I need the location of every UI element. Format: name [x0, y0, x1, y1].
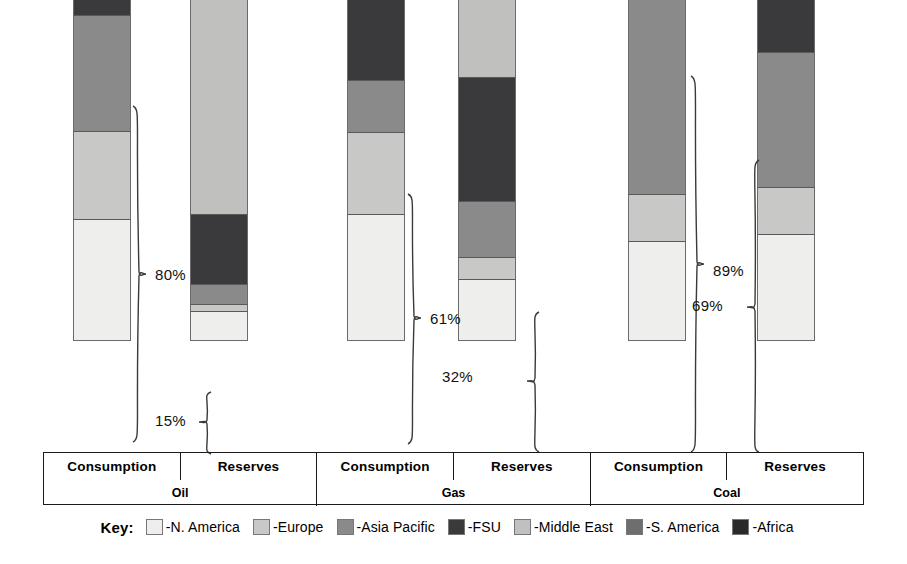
- axis-column-oil-reserves: Reserves: [181, 453, 318, 480]
- bar-segment: [73, 0, 131, 15]
- bar-segment: [347, 214, 405, 341]
- legend-swatch-icon: [732, 519, 749, 535]
- brace-gas-consumption: [406, 194, 422, 444]
- legend-item: -Africa: [732, 519, 793, 535]
- bar-segment: [458, 201, 516, 257]
- legend-swatch-icon: [448, 519, 465, 535]
- axis-column-gas-consumption: Consumption: [317, 453, 454, 480]
- bar-coal-consumption: [628, 0, 686, 341]
- bar-segment: [190, 311, 248, 341]
- annotation-label-gas-reserves: 32%: [442, 368, 473, 385]
- bar-gas-consumption: [347, 0, 405, 341]
- bar-segment: [628, 194, 686, 241]
- legend: Key: -N. America-Europe-Asia Pacific-FSU…: [0, 512, 907, 542]
- legend-item: -FSU: [448, 519, 501, 535]
- bar-oil-reserves: [190, 0, 248, 341]
- annotation-label-oil-reserves: 15%: [155, 412, 186, 429]
- bar-segment: [628, 241, 686, 341]
- legend-item-label: -FSU: [468, 519, 501, 535]
- brace-gas-reserves: [525, 312, 541, 452]
- axis-label-box: Consumption Reserves Consumption Reserve…: [43, 452, 864, 505]
- annotation-label-gas-consumption: 61%: [430, 310, 461, 327]
- legend-item-label: -Middle East: [534, 519, 613, 535]
- legend-item-label: -N. America: [166, 519, 240, 535]
- legend-item: -Asia Pacific: [337, 519, 435, 535]
- legend-swatch-icon: [253, 519, 270, 535]
- legend-item-label: -Africa: [752, 519, 793, 535]
- bar-segment: [73, 219, 131, 341]
- bar-segment: [190, 0, 248, 214]
- bar-oil-consumption: [73, 0, 131, 341]
- legend-item: -S. America: [626, 519, 719, 535]
- bar-segment: [458, 257, 516, 279]
- annotation-label-coal-reserves: 69%: [692, 297, 723, 314]
- bar-segment: [458, 279, 516, 341]
- axis-group-gas: Gas: [317, 480, 590, 506]
- legend-item: -N. America: [146, 519, 240, 535]
- brace-oil-consumption: [131, 106, 147, 442]
- bar-segment: [190, 214, 248, 284]
- bar-segment: [757, 0, 815, 52]
- legend-swatch-icon: [146, 519, 163, 535]
- axis-column-coal-consumption: Consumption: [591, 453, 728, 480]
- annotation-label-coal-consumption: 89%: [713, 262, 744, 279]
- bar-segment: [757, 234, 815, 341]
- legend-item-label: -Asia Pacific: [357, 519, 435, 535]
- bar-segment: [458, 77, 516, 201]
- axis-column-oil-consumption: Consumption: [44, 453, 181, 480]
- brace-coal-consumption: [689, 76, 705, 452]
- annotation-label-oil-consumption: 80%: [155, 266, 186, 283]
- legend-title: Key:: [100, 519, 133, 536]
- bar-segment: [628, 0, 686, 194]
- legend-item-label: -S. America: [646, 519, 719, 535]
- bar-coal-reserves: [757, 0, 815, 341]
- axis-group-labels: Oil Gas Coal: [44, 480, 863, 506]
- axis-column-labels: Consumption Reserves Consumption Reserve…: [44, 453, 863, 480]
- bar-segment: [347, 132, 405, 214]
- legend-swatch-icon: [337, 519, 354, 535]
- bar-segment: [190, 284, 248, 304]
- bar-segment: [190, 304, 248, 311]
- brace-oil-reserves: [197, 392, 213, 454]
- legend-swatch-icon: [626, 519, 643, 535]
- bar-segment: [757, 187, 815, 234]
- axis-group-oil: Oil: [44, 480, 317, 506]
- bar-segment: [347, 80, 405, 131]
- axis-column-coal-reserves: Reserves: [727, 453, 863, 480]
- bar-segment: [757, 52, 815, 187]
- bar-gas-reserves: [458, 0, 516, 341]
- legend-item: -Europe: [253, 519, 324, 535]
- stacked-bar-chart: 80% 15% 61% 32% 89% 69% Consumption Rese…: [0, 0, 907, 564]
- bar-segment: [347, 0, 405, 80]
- axis-column-gas-reserves: Reserves: [454, 453, 591, 480]
- legend-items: -N. America-Europe-Asia Pacific-FSU-Midd…: [146, 519, 807, 535]
- bar-segment: [73, 15, 131, 131]
- bar-segment: [73, 131, 131, 219]
- brace-coal-reserves: [745, 160, 761, 452]
- legend-swatch-icon: [514, 519, 531, 535]
- legend-item: -Middle East: [514, 519, 613, 535]
- legend-item-label: -Europe: [273, 519, 324, 535]
- axis-group-coal: Coal: [591, 480, 863, 506]
- bar-segment: [458, 0, 516, 77]
